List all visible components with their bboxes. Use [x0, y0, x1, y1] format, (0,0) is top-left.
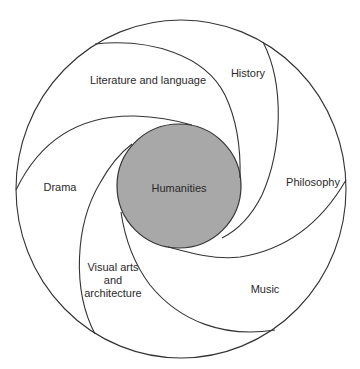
segment-label-visual-arts: Visual arts and architecture — [78, 261, 148, 300]
segment-label-music: Music — [225, 283, 305, 296]
segment-label-literature: Literature and language — [88, 74, 208, 87]
segment-label-philosophy: Philosophy — [268, 176, 358, 189]
center-label-humanities: Humanities — [129, 182, 229, 195]
segment-label-history: History — [208, 67, 288, 80]
segment-label-drama: Drama — [30, 181, 90, 194]
